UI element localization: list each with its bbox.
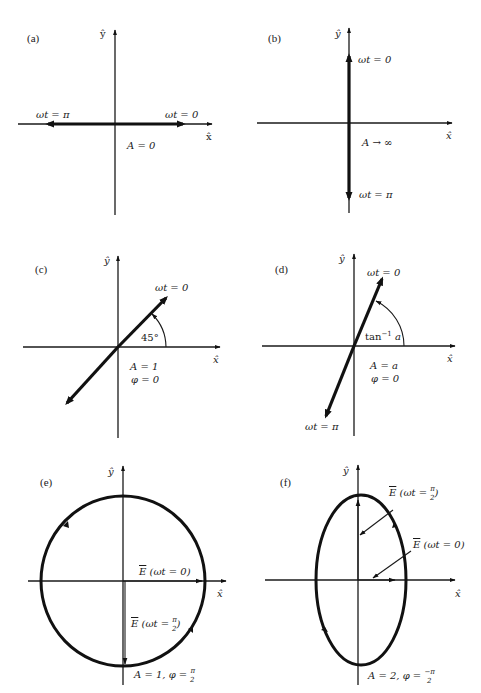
panel-e: (e) ŷ x̂ E (ωt = 0) E (ωt = π2) A = 1, φ… bbox=[28, 466, 226, 685]
panel-label: (f) bbox=[280, 476, 291, 489]
x-axis-label: x̂ bbox=[213, 354, 219, 365]
y-axis-label: ŷ bbox=[103, 255, 110, 266]
label-param: A = 0 bbox=[126, 140, 156, 151]
label-wt-0: ωt = 0 bbox=[358, 54, 392, 65]
y-axis-label: ŷ bbox=[334, 28, 341, 39]
label-E-wt90: E (ωt = π2) bbox=[388, 485, 438, 502]
label-param: A = 1, φ = π2 bbox=[133, 667, 195, 684]
x-axis-label: x̂ bbox=[206, 131, 212, 142]
y-axis-label: ŷ bbox=[107, 466, 114, 477]
panel-label: (e) bbox=[40, 476, 53, 489]
label-param-phi: φ = 0 bbox=[371, 373, 400, 384]
panel-b: (b) ŷ x̂ ωt = 0 A → ∞ ωt = π bbox=[257, 28, 452, 213]
panel-c: (c) ŷ x̂ ωt = 0 45° A = 1 φ = 0 bbox=[23, 255, 220, 438]
panel-label: (b) bbox=[268, 32, 281, 45]
x-axis-label: x̂ bbox=[217, 588, 223, 599]
panel-label: (c) bbox=[35, 263, 48, 276]
y-axis-label: ŷ bbox=[338, 253, 345, 264]
polarization-figure: (a) ŷ x̂ ωt = π ωt = 0 A = 0 (b) ŷ x̂ ωt… bbox=[0, 0, 481, 693]
x-axis-label: x̂ bbox=[455, 588, 461, 599]
label-E-wt90: E (ωt = π2) bbox=[130, 616, 180, 633]
leader-arrow-wt90 bbox=[360, 510, 393, 535]
label-param-phi: φ = 0 bbox=[131, 374, 160, 385]
label-wt-0: ωt = 0 bbox=[165, 109, 199, 120]
label-angle: 45° bbox=[141, 332, 159, 343]
panel-a: (a) ŷ x̂ ωt = π ωt = 0 A = 0 bbox=[18, 28, 212, 215]
label-E-wt0: E (ωt = 0) bbox=[412, 539, 465, 550]
panel-f: (f) ŷ x̂ E (ωt = π2) E (ωt = 0) A = 2, φ… bbox=[265, 465, 465, 685]
label-wt-0: ωt = 0 bbox=[367, 267, 401, 278]
x-axis-label: x̂ bbox=[446, 130, 452, 141]
label-wt-pi: ωt = π bbox=[36, 109, 70, 120]
label-wt-pi: ωt = π bbox=[305, 421, 339, 432]
label-angle: tan−1 a bbox=[365, 330, 401, 342]
panel-d: (d) ŷ x̂ ωt = 0 tan−1 a A = a φ = 0 ωt =… bbox=[262, 253, 455, 436]
panel-label: (a) bbox=[27, 32, 40, 45]
field-vector-wtpi bbox=[67, 347, 118, 403]
y-axis-label: ŷ bbox=[342, 465, 349, 476]
label-param: A = 2, φ = −π2 bbox=[367, 668, 435, 685]
x-axis-label: x̂ bbox=[447, 353, 453, 364]
label-param-A: A = 1 bbox=[129, 361, 158, 372]
label-wt-0: ωt = 0 bbox=[155, 282, 189, 293]
label-param: A → ∞ bbox=[361, 137, 392, 148]
label-E-wt0: E (ωt = 0) bbox=[138, 566, 191, 577]
label-param-A: A = a bbox=[369, 360, 398, 371]
panel-label: (d) bbox=[275, 263, 288, 276]
y-axis-label: ŷ bbox=[99, 28, 106, 39]
field-vector-wtpi bbox=[326, 346, 354, 416]
label-wt-pi: ωt = π bbox=[359, 189, 393, 200]
